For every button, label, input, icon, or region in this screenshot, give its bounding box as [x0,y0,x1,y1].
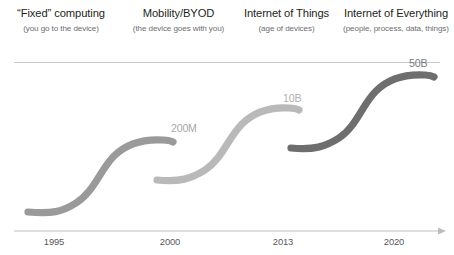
era-subtitle: (you go to the device) [23,23,99,34]
curve-label-50b: 50B [409,57,427,69]
chart-plot-area [0,62,454,234]
curve-label-10b: 10B [283,92,301,104]
x-axis-year-2020: 2020 [384,236,404,248]
era-subtitle: (age of devices) [259,23,315,34]
x-axis-arrowhead [438,228,446,235]
x-axis-year-labels: 1995 2000 2013 2020 [0,236,454,250]
era-column-mobility-byod: Mobility/BYOD (the device goes with you) [122,6,235,34]
era-subtitle: (the device goes with you) [133,23,224,34]
x-axis-year-2000: 2000 [160,236,180,248]
x-axis-year-1995: 1995 [44,236,64,248]
era-column-internet-of-everything: Internet of Everything (people, process,… [338,6,454,34]
era-title: Internet of Things [244,6,329,20]
era-subtitle: (people, process, data, things) [343,23,449,34]
x-axis-year-2013: 2013 [273,236,293,248]
curve-fixed-computing [28,140,173,213]
era-header-row: “Fixed” computing (you go to the device)… [0,6,454,52]
curve-internet-of-everything [291,75,434,149]
curve-mobility-byod [157,108,299,181]
era-column-fixed-computing: “Fixed” computing (you go to the device) [0,6,122,34]
era-title: Mobility/BYOD [143,6,214,20]
era-title: Internet of Everything [344,6,448,20]
era-title: “Fixed” computing [17,6,105,20]
era-column-internet-of-things: Internet of Things (age of devices) [235,6,338,34]
infographic-canvas: “Fixed” computing (you go to the device)… [0,0,454,255]
curve-label-200m: 200M [171,122,197,134]
